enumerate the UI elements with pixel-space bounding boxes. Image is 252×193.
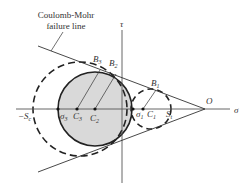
label-C1: C1 <box>147 109 156 120</box>
point-C2 <box>93 107 96 110</box>
label-sigma1: σ1 <box>136 109 143 120</box>
label-B2: B2 <box>109 58 118 69</box>
origin-label: O <box>206 96 213 106</box>
tau-label: τ <box>120 19 124 29</box>
annotation-leader <box>51 32 63 51</box>
point-sigma1 <box>131 107 134 110</box>
label-B1: B1 <box>151 78 160 89</box>
label-neg-Sc: −Sc <box>18 111 32 122</box>
radius-C1-B1 <box>143 90 156 109</box>
sigma-label: σ <box>234 105 239 115</box>
point-C1 <box>141 107 144 110</box>
annotation-line1: Coulomb-Mohr <box>38 10 95 20</box>
annotation-line2: failure line <box>46 21 85 31</box>
coulomb-mohr-diagram: Coulomb-Mohr failure line τ σ O B3 B2 B1… <box>0 0 252 193</box>
label-B3: B3 <box>93 54 102 65</box>
